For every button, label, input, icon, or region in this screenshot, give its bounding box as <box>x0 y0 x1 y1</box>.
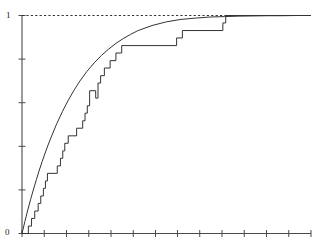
theoretical-cdf-curve <box>22 16 311 234</box>
chart-plot-area <box>0 0 317 247</box>
y-axis-label-bottom: 0 <box>5 228 10 237</box>
y-axis-label-top: 1 <box>6 11 11 20</box>
chart-figure: 1 0 <box>0 0 317 247</box>
empirical-cdf-step <box>22 16 311 234</box>
